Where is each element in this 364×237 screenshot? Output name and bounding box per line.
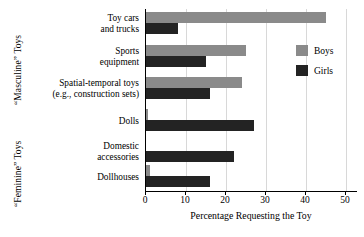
bar-girls-2 [146, 88, 210, 99]
category-label-line: Dolls [119, 116, 139, 127]
legend-label: Boys [314, 46, 334, 56]
bar-chart: “Masculine” Toys “Feminine” Toys Toy car… [0, 0, 364, 237]
x-axis-tick-label: 40 [290, 195, 320, 205]
category-label-line: accessories [97, 152, 139, 163]
gridline [346, 9, 347, 191]
bar-girls-0 [146, 23, 178, 34]
gridline [306, 9, 307, 191]
legend-entry: Boys [296, 45, 334, 56]
category-label-line: Sports [100, 46, 139, 57]
x-axis-tick-label: 0 [130, 195, 160, 205]
gridline [186, 9, 187, 191]
legend-label: Girls [314, 66, 333, 76]
category-label: Domesticaccessories [97, 141, 139, 162]
gridline [266, 9, 267, 191]
category-label-line: Domestic [97, 141, 139, 152]
bar-boys-0 [146, 12, 326, 23]
x-axis-tick-label: 10 [170, 195, 200, 205]
legend-swatch-girls [296, 65, 308, 76]
legend-entry: Girls [296, 65, 334, 76]
bar-boys-2 [146, 77, 242, 88]
x-axis-tick-label: 50 [330, 195, 360, 205]
category-label: Toy carsand trucks [101, 13, 139, 34]
bar-boys-5 [146, 165, 150, 176]
category-label-line: Dollhouses [97, 172, 139, 183]
gridline [226, 9, 227, 191]
category-label-line: Spatial-temporal toys [53, 78, 140, 89]
bar-girls-1 [146, 56, 206, 67]
legend-swatch-boys [296, 45, 308, 56]
category-label-line: and trucks [101, 24, 139, 35]
x-axis-tick-label: 20 [210, 195, 240, 205]
bar-girls-3 [146, 120, 254, 131]
x-axis-tick-label: 30 [250, 195, 280, 205]
bar-boys-3 [146, 109, 148, 120]
category-label: Sportsequipment [100, 46, 139, 67]
category-label: Dolls [119, 116, 139, 127]
bar-girls-5 [146, 176, 210, 187]
x-axis-line [145, 191, 357, 192]
bar-girls-4 [146, 151, 234, 162]
category-label-column: Toy carsand trucksSportsequipmentSpatial… [20, 9, 142, 191]
bar-boys-1 [146, 45, 246, 56]
category-label: Dollhouses [97, 172, 139, 183]
category-label-line: (e.g., construction sets) [53, 89, 140, 100]
x-axis-title: Percentage Requesting the Toy [145, 210, 357, 221]
plot-area [145, 9, 358, 191]
category-label: Spatial-temporal toys(e.g., construction… [53, 78, 140, 99]
category-label-line: equipment [100, 57, 139, 68]
chart-legend: BoysGirls [296, 45, 334, 85]
category-label-line: Toy cars [101, 13, 139, 24]
